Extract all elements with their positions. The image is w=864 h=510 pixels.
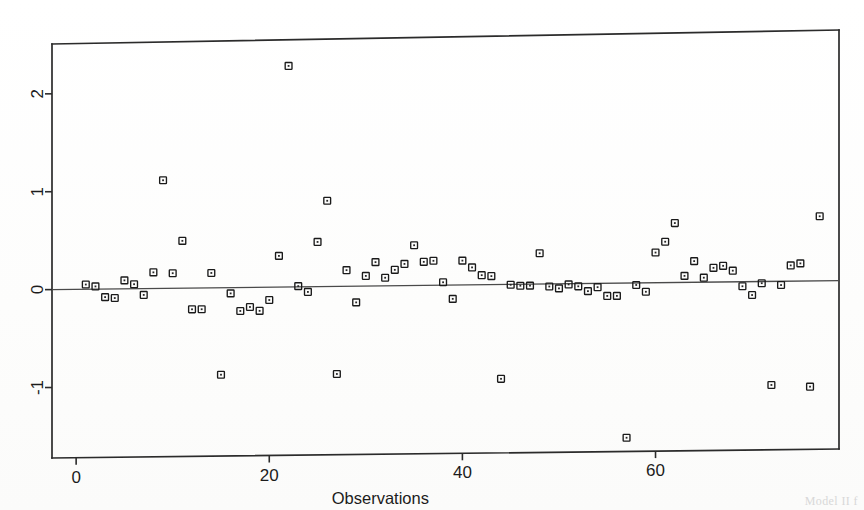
data-point <box>237 308 244 315</box>
data-point <box>285 63 292 70</box>
data-point-center <box>433 260 435 262</box>
data-point <box>488 273 495 280</box>
data-point-center <box>655 252 657 254</box>
data-point-center <box>104 296 106 298</box>
data-point-center <box>230 292 232 294</box>
data-point <box>304 289 311 296</box>
data-point <box>121 277 128 284</box>
data-point-center <box>346 269 348 271</box>
data-point-center <box>423 261 425 263</box>
data-point <box>739 283 746 290</box>
frame-top-edge <box>52 30 839 44</box>
y-tick-label--1: -1 <box>29 380 48 395</box>
data-point <box>681 272 688 279</box>
data-point <box>614 292 621 299</box>
data-point <box>556 285 563 292</box>
data-point-center <box>519 285 521 287</box>
data-point <box>343 267 350 274</box>
data-point <box>778 282 785 289</box>
data-point <box>131 281 138 288</box>
data-point-center <box>558 287 560 289</box>
data-point-center <box>722 265 724 267</box>
data-point-center <box>452 298 454 300</box>
data-point <box>671 220 678 227</box>
data-point-center <box>249 306 251 308</box>
x-tick-label-60: 60 <box>646 461 665 480</box>
data-point-center <box>317 241 319 243</box>
data-point <box>420 258 427 265</box>
data-point <box>585 288 592 295</box>
data-point <box>218 371 225 378</box>
data-point-center <box>626 437 628 439</box>
data-point-center <box>85 284 87 286</box>
data-point-center <box>510 284 512 286</box>
data-point <box>459 257 466 264</box>
data-point <box>160 177 167 184</box>
data-point-center <box>732 270 734 272</box>
x-axis-title: Observations <box>332 489 429 507</box>
data-point-center <box>172 272 174 274</box>
data-point-center <box>577 285 579 287</box>
data-point <box>729 267 736 274</box>
data-point <box>691 258 698 265</box>
data-point-center <box>143 294 145 296</box>
data-point <box>189 306 196 313</box>
data-point <box>642 288 649 295</box>
data-point <box>372 259 379 266</box>
axis-labels-group: 210-10204060Observations <box>29 89 665 507</box>
data-point-center <box>461 260 463 262</box>
data-point-center <box>645 291 647 293</box>
data-point-center <box>790 265 792 267</box>
data-point-center <box>326 200 328 202</box>
data-point <box>102 294 109 301</box>
data-point-center <box>548 286 550 288</box>
data-point-center <box>394 269 396 271</box>
data-point-center <box>713 267 715 269</box>
data-point <box>720 262 727 269</box>
data-point <box>478 272 485 279</box>
data-point-center <box>288 65 290 67</box>
data-point <box>768 382 775 389</box>
data-point <box>295 283 302 290</box>
data-point <box>498 375 505 382</box>
data-point-center <box>268 299 270 301</box>
data-point-center <box>606 295 608 297</box>
frame-bottom-edge <box>52 449 839 458</box>
data-point <box>362 273 369 280</box>
x-tick-label-40: 40 <box>453 463 472 482</box>
data-point-center <box>809 386 811 388</box>
data-point <box>314 239 321 246</box>
data-point-center <box>124 279 126 281</box>
x-tick-label-20: 20 <box>260 466 279 485</box>
page-caption-fragment: Model II f <box>805 494 858 509</box>
axes-group <box>52 30 839 458</box>
data-point-center <box>819 215 821 217</box>
data-point <box>179 237 186 244</box>
data-point-center <box>799 262 801 264</box>
data-point-center <box>191 308 193 310</box>
data-point <box>82 281 89 288</box>
data-point-center <box>365 275 367 277</box>
data-point <box>652 249 659 256</box>
data-point-center <box>481 274 483 276</box>
data-point <box>700 274 707 281</box>
data-point-center <box>259 310 261 312</box>
data-point-center <box>674 222 676 224</box>
data-point <box>266 297 273 304</box>
data-point <box>111 295 118 302</box>
data-point <box>449 295 456 302</box>
data-point <box>536 250 543 257</box>
data-point-center <box>616 295 618 297</box>
data-point-center <box>375 261 377 263</box>
data-point-center <box>181 240 183 242</box>
data-point <box>430 257 437 264</box>
data-point <box>623 434 630 441</box>
scatter-plot-canvas: 210-10204060Observations <box>0 0 864 510</box>
data-point <box>411 242 418 249</box>
data-point-center <box>201 308 203 310</box>
data-point-center <box>133 283 135 285</box>
data-point <box>749 292 756 299</box>
data-point <box>807 383 814 390</box>
data-point-center <box>761 282 763 284</box>
data-point <box>594 284 601 291</box>
